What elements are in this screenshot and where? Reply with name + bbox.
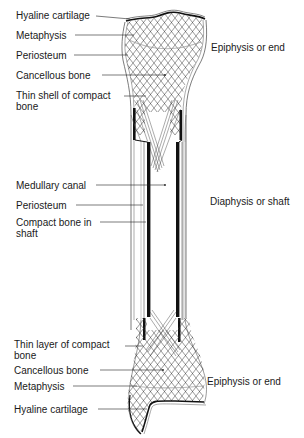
label-diaphysis: Diaphysis or shaft <box>210 196 289 207</box>
label-medullary-canal: Medullary canal <box>16 180 86 191</box>
cancellous-bone-bottom-hatch <box>124 315 209 437</box>
label-thin-shell-compact-bone: Thin shell of compact bone <box>16 90 121 112</box>
label-metaphysis-top: Metaphysis <box>16 30 67 41</box>
label-epiphysis-bottom: Epiphysis or end <box>207 376 281 387</box>
label-periosteum-top: Periosteum <box>16 50 67 61</box>
label-hyaline-cartilage-top: Hyaline cartilage <box>16 10 90 21</box>
hyaline-cartilage-bottom-shape <box>142 401 204 432</box>
label-thin-layer-compact-bone: Thin layer of compact bone <box>14 339 122 361</box>
label-cancellous-bone-top: Cancellous bone <box>16 70 91 81</box>
compact-bone-right <box>176 142 179 317</box>
label-periosteum-mid: Periosteum <box>16 200 67 211</box>
compact-bone-left <box>147 142 150 317</box>
label-compact-bone-shaft: Compact bone in shaft <box>16 217 98 239</box>
label-metaphysis-bottom: Metaphysis <box>14 381 65 392</box>
compact-bone-right-upper <box>180 110 183 140</box>
label-epiphysis-top: Epiphysis or end <box>211 42 285 53</box>
label-hyaline-cartilage-bottom: Hyaline cartilage <box>14 404 88 415</box>
label-cancellous-bone-bottom: Cancellous bone <box>14 365 89 376</box>
